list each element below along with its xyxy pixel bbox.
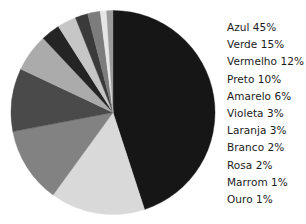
legend-item: Rosa 2% — [227, 157, 306, 174]
pie-chart-plot-area — [8, 8, 218, 217]
chart-legend: Azul 45% Verde 15% Vermelho 12% Preto 10… — [227, 19, 306, 208]
legend-item: Branco 2% — [227, 139, 306, 156]
pie-chart-figure: Azul 45% Verde 15% Vermelho 12% Preto 10… — [0, 0, 306, 224]
legend-item: Preto 10% — [227, 71, 306, 88]
pie-chart-svg — [8, 8, 218, 217]
legend-item: Azul 45% — [227, 19, 306, 36]
legend-item: Marrom 1% — [227, 174, 306, 191]
legend-item: Violeta 3% — [227, 105, 306, 122]
legend-item: Ouro 1% — [227, 191, 306, 208]
legend-item: Laranja 3% — [227, 122, 306, 139]
legend-item: Verde 15% — [227, 36, 306, 53]
legend-item: Vermelho 12% — [227, 53, 306, 70]
pie-slice-group — [11, 11, 215, 215]
legend-item: Amarelo 6% — [227, 88, 306, 105]
